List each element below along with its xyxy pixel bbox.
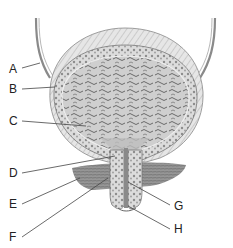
leader-h (128, 206, 170, 229)
bladder-diagram (0, 0, 233, 248)
urethra-wall-left (110, 150, 124, 209)
label-f: F (9, 231, 16, 243)
left-ureter-inner (39, 18, 53, 76)
leader-e (22, 178, 80, 204)
leader-f (22, 178, 108, 237)
left-ureter (36, 18, 50, 78)
label-c: C (9, 115, 18, 127)
label-a: A (9, 63, 17, 75)
right-ureter (200, 18, 215, 78)
leader-a (22, 63, 40, 68)
urethra-wall-right (128, 150, 142, 209)
label-b: B (9, 83, 17, 95)
label-g: G (174, 200, 183, 212)
label-e: E (9, 198, 17, 210)
urethra-lumen (124, 148, 128, 208)
right-ureter-inner (197, 18, 212, 76)
label-h: H (174, 223, 183, 235)
label-d: D (9, 167, 18, 179)
